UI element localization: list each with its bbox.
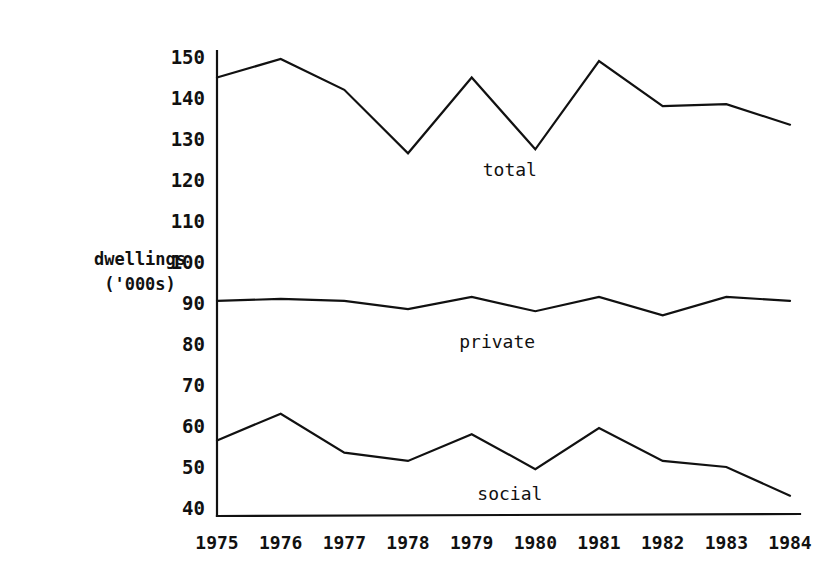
data-series-group [217, 59, 790, 496]
series-label-private: private [459, 331, 535, 352]
x-tick-label: 1982 [641, 532, 684, 553]
axis-lines [217, 51, 800, 516]
y-tick-label: 150 [171, 46, 205, 68]
x-tick-label: 1979 [450, 532, 493, 553]
x-tick-label: 1983 [705, 532, 748, 553]
series-label-social: social [477, 483, 542, 504]
series-line-private [217, 297, 790, 315]
x-tick-label: 1976 [259, 532, 302, 553]
y-tick-label: 130 [171, 128, 205, 150]
x-axis-tick-labels: 1975197619771978197919801981198219831984 [195, 532, 812, 553]
y-axis-title-line1: dwellings [94, 249, 186, 269]
y-tick-label: 110 [171, 210, 205, 232]
series-annotations: totalprivatesocial [459, 159, 542, 504]
x-tick-label: 1977 [323, 532, 366, 553]
series-line-total [217, 59, 790, 153]
y-tick-label: 80 [182, 333, 205, 355]
line-chart: 405060708090100110120130140150 197519761… [0, 0, 839, 575]
x-tick-label: 1984 [768, 532, 812, 553]
y-tick-label: 40 [182, 497, 205, 519]
y-tick-label: 90 [182, 292, 205, 314]
series-label-total: total [483, 159, 537, 180]
y-tick-label: 120 [171, 169, 205, 191]
chart-canvas: 405060708090100110120130140150 197519761… [0, 0, 839, 575]
y-axis-title-line2: ('000s) [104, 274, 176, 294]
y-tick-label: 50 [182, 456, 205, 478]
y-tick-label: 60 [182, 415, 205, 437]
y-tick-label: 140 [171, 87, 205, 109]
x-axis-line [217, 514, 800, 516]
x-tick-label: 1978 [386, 532, 429, 553]
y-tick-label: 70 [182, 374, 205, 396]
x-tick-label: 1975 [195, 532, 238, 553]
x-tick-label: 1980 [514, 532, 557, 553]
x-tick-label: 1981 [577, 532, 620, 553]
